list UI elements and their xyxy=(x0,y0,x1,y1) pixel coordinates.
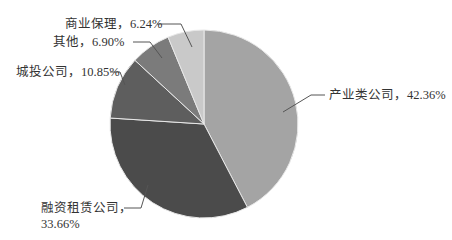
label-factoring: 商业保理，6.24% xyxy=(65,17,162,32)
label-chengtou: 城投公司，10.85% xyxy=(16,65,120,80)
label-industrial: 产业类公司，42.36% xyxy=(329,88,446,103)
label-leasing-line2: 33.66% xyxy=(41,217,80,232)
label-leasing-line1: 融资租赁公司， xyxy=(41,201,132,216)
label-other: 其他，6.90% xyxy=(53,35,124,50)
pie-slices xyxy=(110,30,298,218)
